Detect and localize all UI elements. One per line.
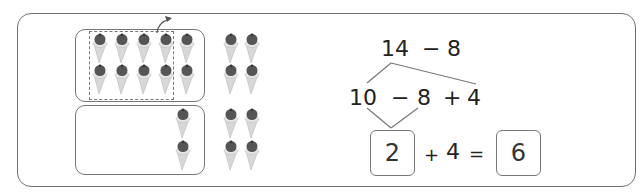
expr-equals: =	[469, 143, 484, 165]
expr-minus-2: −	[391, 87, 409, 109]
decomposition-lines	[0, 0, 641, 192]
expr-4: 4	[467, 87, 481, 109]
expr-8-2: 8	[417, 87, 431, 109]
expr-plus-3: +	[424, 144, 439, 166]
answer-box-6: 6	[496, 130, 541, 176]
expr-plus: +	[443, 87, 461, 109]
expr-10: 10	[349, 87, 377, 109]
expr-4-3: 4	[446, 141, 460, 163]
answer-box-2: 2	[370, 130, 415, 176]
